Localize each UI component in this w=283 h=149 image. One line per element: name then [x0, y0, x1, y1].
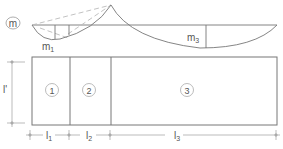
m1-label: m1	[42, 41, 54, 53]
dimension-l2: l2	[86, 130, 92, 142]
field-2: 2	[83, 84, 96, 97]
continuous-slab-diagram: m m1 m3 1 2 3	[0, 0, 283, 149]
svg-text:1: 1	[49, 86, 54, 96]
span-dimensions	[26, 130, 280, 140]
svg-text:2: 2	[86, 86, 91, 96]
moment-curves	[32, 5, 277, 48]
dimension-l3: l3	[174, 130, 180, 142]
dimension-l1: l1	[46, 130, 52, 142]
moment-label-badge: m	[6, 17, 20, 29]
svg-text:3: 3	[184, 86, 189, 96]
moment-label: m	[9, 18, 17, 29]
moment-closing-lines	[32, 5, 111, 38]
field-3: 3	[181, 84, 194, 97]
slab-plan	[32, 57, 277, 125]
field-1: 1	[46, 84, 59, 97]
m3-label: m3	[187, 32, 199, 44]
height-dimension	[7, 61, 25, 127]
height-dimension-label: l'	[3, 84, 7, 95]
